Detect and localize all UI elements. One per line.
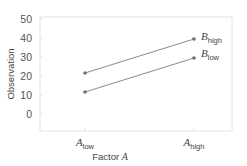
y-tick-30: 30: [20, 51, 32, 63]
y-tick-20: 20: [20, 70, 32, 82]
series-b-low: Blow: [83, 47, 219, 94]
x-tick-a-high: Ahigh: [183, 136, 205, 151]
label-b-low: Blow: [201, 47, 220, 62]
point-b-high-a-low: [83, 71, 87, 75]
x-tick-a-low: Alow: [75, 136, 95, 151]
x-axis-label: Factor A: [92, 151, 129, 162]
y-tick-50: 50: [20, 13, 32, 25]
y-axis: 50 40 30 20 10 0 Observation: [5, 13, 43, 120]
y-tick-0: 0: [26, 108, 32, 120]
y-tick-10: 10: [20, 89, 32, 101]
point-b-low-a-low: [83, 90, 87, 94]
label-b-high: Bhigh: [201, 30, 222, 45]
x-axis: Alow Ahigh Factor A: [75, 128, 204, 162]
interaction-chart: 50 40 30 20 10 0 Observation Alow Ahigh …: [0, 0, 247, 166]
y-tick-40: 40: [20, 32, 32, 44]
point-b-low-a-high: [192, 56, 196, 60]
y-axis-label: Observation: [5, 48, 16, 99]
point-b-high-a-high: [192, 37, 196, 41]
